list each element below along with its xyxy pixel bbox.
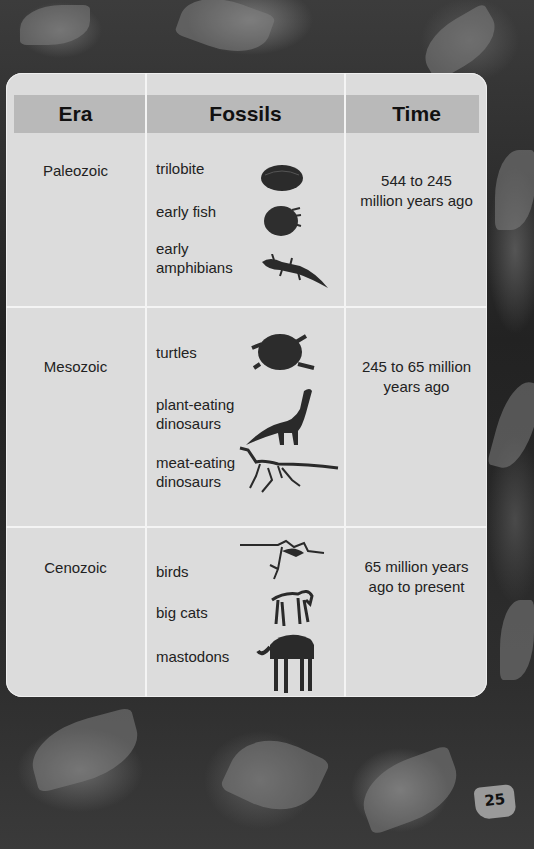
era-mesozoic: Mesozoic xyxy=(6,358,145,375)
time-paleozoic: 544 to 245million years ago xyxy=(346,171,487,211)
fossil-early-amphibians: earlyamphibians xyxy=(156,239,233,277)
fossil-meat-eating-dinosaurs: meat-eatingdinosaurs xyxy=(156,453,235,491)
amphibian-icon xyxy=(260,254,330,290)
fossil-birds: birds xyxy=(156,562,189,581)
era-cenozoic: Cenozoic xyxy=(6,559,145,576)
time-mesozoic: 245 to 65 millionyears ago xyxy=(346,357,487,397)
geologic-time-table: Era Fossils Time Paleozoic trilobite ear… xyxy=(6,73,487,697)
header-time: Time xyxy=(346,95,487,133)
fossil-big-cats: big cats xyxy=(156,603,208,622)
fossil-mastodons: mastodons xyxy=(156,647,229,666)
bird-skeleton-icon xyxy=(238,539,328,589)
fossil-early-fish: early fish xyxy=(156,202,216,221)
sauropod-icon xyxy=(244,387,318,447)
theropod-skeleton-icon xyxy=(238,446,340,494)
fossil-turtles: turtles xyxy=(156,343,197,362)
mastodon-skeleton-icon xyxy=(256,631,318,697)
turtle-icon xyxy=(250,328,316,372)
page-number: 25 xyxy=(474,789,516,811)
row-divider xyxy=(6,526,487,528)
early-fish-icon xyxy=(262,204,302,238)
header-era: Era xyxy=(6,95,145,133)
era-paleozoic: Paleozoic xyxy=(6,162,145,179)
column-divider xyxy=(145,73,147,697)
trilobite-icon xyxy=(259,163,305,193)
fossil-plant-eating-dinosaurs: plant-eatingdinosaurs xyxy=(156,395,234,433)
row-divider xyxy=(6,306,487,308)
time-cenozoic: 65 million yearsago to present xyxy=(346,557,487,597)
page-number-tag: 25 xyxy=(473,784,516,820)
cat-skeleton-icon xyxy=(268,586,314,628)
fossil-trilobite: trilobite xyxy=(156,159,204,178)
header-fossils: Fossils xyxy=(147,95,344,133)
